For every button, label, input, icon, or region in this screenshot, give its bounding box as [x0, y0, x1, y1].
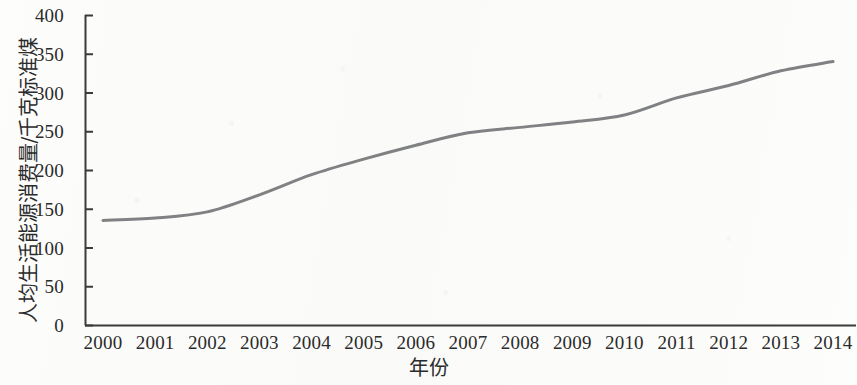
x-tick-label: 2012 — [709, 333, 748, 352]
x-tick-label: 2014 — [814, 333, 853, 352]
chart-figure: 050100150200250300350400 200020012002200… — [0, 0, 857, 385]
x-tick-label: 2003 — [240, 333, 279, 352]
x-tick-label: 2008 — [501, 333, 540, 352]
x-tick-label: 2009 — [553, 333, 592, 352]
x-tick-label: 2007 — [449, 333, 488, 352]
x-axis-tick-labels: 2000200120022003200420052006200720082009… — [0, 0, 857, 385]
x-tick-label: 2011 — [658, 333, 696, 352]
x-tick-label: 2000 — [84, 333, 123, 352]
x-tick-label: 2010 — [605, 333, 644, 352]
x-tick-label: 2002 — [188, 333, 227, 352]
x-tick-label: 2013 — [761, 333, 800, 352]
x-tick-label: 2004 — [292, 333, 331, 352]
x-tick-label: 2006 — [396, 333, 435, 352]
x-tick-label: 2005 — [344, 333, 383, 352]
x-axis-title: 年份 — [0, 358, 857, 378]
y-axis-title: 人均生活能源消费量/千克标准煤 — [19, 20, 39, 340]
x-tick-label: 2001 — [136, 333, 175, 352]
